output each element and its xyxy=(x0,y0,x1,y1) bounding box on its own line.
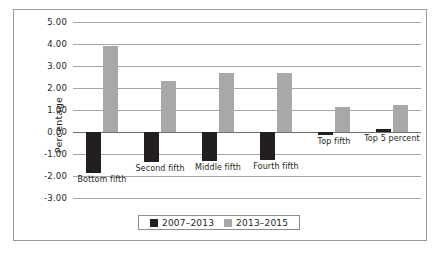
bar xyxy=(260,132,275,160)
x-axis-category-label: Bottom fifth xyxy=(77,175,126,184)
bar-group: Top fifth xyxy=(305,22,363,198)
chart-legend: 2007–2013 2013–2015 xyxy=(138,215,300,230)
y-axis-tick-label: -1.00 xyxy=(44,149,67,159)
x-axis-category-label: Second fifth xyxy=(135,164,184,173)
bar-group: Fourth fifth xyxy=(247,22,305,198)
bar-group: Top 5 percent xyxy=(363,22,421,198)
bar xyxy=(144,132,159,162)
bar xyxy=(318,132,333,135)
bar xyxy=(202,132,217,161)
legend-swatch-icon xyxy=(224,219,232,227)
legend-item: 2007–2013 xyxy=(150,218,214,228)
bar xyxy=(376,129,391,132)
x-axis-category-label: Top 5 percent xyxy=(364,134,420,143)
y-axis-tick-label: 2.00 xyxy=(47,83,67,93)
bar-group: Second fifth xyxy=(131,22,189,198)
y-axis-tick-label: -2.00 xyxy=(44,171,67,181)
bar-group: Bottom fifth xyxy=(73,22,131,198)
clipped-caption xyxy=(14,249,426,257)
x-axis-category-label: Middle fifth xyxy=(195,163,241,172)
x-axis-category-label: Fourth fifth xyxy=(253,162,298,171)
figure: Percentage 5.004.003.002.001.000.00-1.00… xyxy=(0,0,439,257)
bar xyxy=(335,107,350,132)
legend-label: 2013–2015 xyxy=(236,218,288,228)
x-axis-category-label: Top fifth xyxy=(318,137,351,146)
y-axis-tick-label: 3.00 xyxy=(47,61,67,71)
bar xyxy=(393,105,408,132)
chart-frame: Percentage 5.004.003.002.001.000.00-1.00… xyxy=(13,9,427,241)
y-axis-tick-label: 5.00 xyxy=(47,17,67,27)
bar xyxy=(103,46,118,132)
legend-swatch-icon xyxy=(150,219,158,227)
y-axis-tick-label: 4.00 xyxy=(47,39,67,49)
bar-group: Middle fifth xyxy=(189,22,247,198)
bar xyxy=(161,81,176,132)
y-axis-tick-label: 1.00 xyxy=(47,105,67,115)
bar xyxy=(219,73,234,132)
plot-area: 5.004.003.002.001.000.00-1.00-2.00-3.00B… xyxy=(73,22,421,198)
bar xyxy=(277,73,292,132)
legend-label: 2007–2013 xyxy=(162,218,214,228)
y-axis-tick-label: -3.00 xyxy=(44,193,67,203)
bar xyxy=(86,132,101,173)
y-axis-tick-label: 0.00 xyxy=(47,127,67,137)
legend-item: 2013–2015 xyxy=(224,218,288,228)
gridline xyxy=(73,198,421,199)
